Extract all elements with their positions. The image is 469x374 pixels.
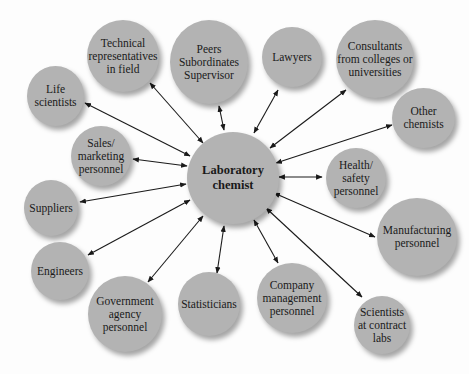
node-label: Statisticians (181, 298, 237, 311)
node-label: Suppliers (29, 202, 72, 215)
node-label: Consultants from colleges or universitie… (337, 40, 412, 79)
node-scientists-contract-labs: Scientists at contract labs (354, 296, 410, 354)
node-suppliers: Suppliers (24, 180, 78, 236)
node-life-scientists: Life scientists (27, 66, 84, 126)
node-laboratory-chemist: Laboratory chemist (187, 132, 279, 224)
node-label: Sales/ marketing personnel (78, 137, 125, 176)
node-technical-representatives: Technical representatives in field (87, 20, 159, 92)
arrow-peers (219, 106, 224, 130)
node-other-chemists: Other chemists (392, 88, 455, 148)
node-label: Health/ safety personnel (334, 159, 379, 198)
node-company-management: Company management personnel (257, 263, 327, 333)
node-consultants: Consultants from colleges or universitie… (336, 20, 414, 98)
node-engineers: Engineers (31, 242, 89, 300)
node-label: Life scientists (34, 83, 76, 109)
node-label: Peers Subordinates Supervisor (179, 43, 239, 82)
node-label: Scientists at contract labs (358, 306, 406, 345)
arrow-consultants (270, 90, 346, 148)
node-sales-marketing: Sales/ marketing personnel (71, 126, 131, 186)
node-label: Engineers (37, 265, 83, 278)
node-label: Technical representatives in field (89, 37, 158, 76)
node-label: Lawyers (272, 51, 312, 64)
arrow-company (254, 220, 278, 263)
arrow-government (148, 216, 203, 282)
node-government: Government agency personnel (88, 276, 162, 352)
center-label: Laboratory chemist (202, 163, 264, 193)
node-label: Government agency personnel (96, 295, 153, 334)
diagram-canvas: Technical representatives in field Peers… (0, 0, 469, 374)
node-statisticians: Statisticians (178, 272, 240, 336)
node-lawyers: Lawyers (262, 27, 322, 87)
node-label: Manufacturing personnel (383, 224, 451, 250)
node-label: Company management personnel (263, 279, 322, 318)
arrow-statisticians (217, 226, 224, 273)
arrow-lawyers (254, 90, 278, 133)
node-manufacturing: Manufacturing personnel (377, 198, 457, 276)
node-health-safety: Health/ safety personnel (326, 148, 386, 208)
arrow-engineers (88, 200, 190, 255)
arrow-sales (133, 159, 187, 166)
node-peers: Peers Subordinates Supervisor (170, 20, 248, 104)
node-label: Other chemists (403, 105, 443, 131)
arrow-suppliers (80, 184, 186, 202)
